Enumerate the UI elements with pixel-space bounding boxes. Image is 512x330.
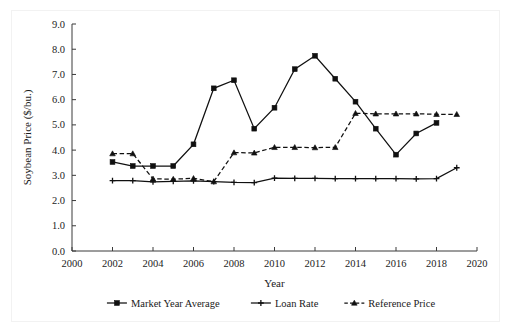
data-point-square-marker [313,53,318,58]
series-reference-price [110,110,460,183]
data-point-square-marker [252,126,257,131]
series-line-path [113,168,457,183]
data-point-plus-marker [110,178,116,184]
data-point-plus-marker [393,176,399,182]
x-tick-label: 2016 [386,258,407,269]
data-point-square-marker [394,152,399,157]
y-tick-label: 2.0 [52,195,65,206]
data-point-plus-marker [434,176,440,182]
x-tick-label: 2014 [345,258,367,269]
data-point-triangle-marker [454,111,460,116]
x-tick-label: 2010 [264,258,285,269]
x-tick-label: 2008 [224,258,245,269]
data-point-square-marker [171,164,176,169]
legend-item-label: Reference Price [368,298,435,309]
y-axis-title: Soybean Price ($/bu.) [21,89,34,185]
data-point-plus-marker [332,176,338,182]
data-point-square-marker [211,86,216,91]
data-point-square-marker [353,99,358,104]
data-point-square-marker [151,164,156,169]
y-tick-label: 0.0 [52,246,65,257]
data-point-plus-marker [272,175,278,181]
data-point-plus-marker [292,175,298,181]
y-tick-label: 1.0 [52,220,65,231]
data-point-square-marker [373,126,378,131]
soybean-price-line-chart: 0.01.02.03.04.05.06.07.08.09.0 200020022… [0,0,512,330]
x-axis-title: Year [264,277,285,289]
x-tick-label: 2020 [467,258,488,269]
data-point-square-marker [434,120,439,125]
y-tick-label: 3.0 [52,170,65,181]
data-point-square-marker [292,67,297,72]
data-point-plus-marker [231,179,237,185]
x-tick-label: 2000 [62,258,83,269]
y-tick-label: 6.0 [52,94,65,105]
data-point-plus-marker [130,178,136,184]
legend-item-market-year-average[interactable]: Market Year Average [107,298,220,309]
series-loan-rate [110,165,460,186]
data-point-plus-marker [353,176,359,182]
data-point-square-marker [272,105,277,110]
data-point-plus-marker [413,176,419,182]
y-tick-label: 8.0 [52,44,65,55]
series-line-path [113,113,457,181]
data-point-plus-marker [312,175,318,181]
data-point-plus-marker [251,180,257,186]
y-tick-label: 9.0 [52,19,65,30]
y-tick-label: 7.0 [52,69,65,80]
x-tick-label: 2012 [305,258,326,269]
axes-group [72,24,477,251]
x-tick-label: 2006 [183,258,204,269]
y-tick-label: 4.0 [52,145,65,156]
data-series-group [110,53,460,185]
x-tick-label: 2018 [426,258,447,269]
data-point-plus-marker [258,300,264,306]
x-axis-ticks: 2000200220042006200820102012201420162018… [62,247,488,269]
legend-item-loan-rate[interactable]: Loan Rate [251,298,319,309]
data-point-square-marker [115,301,120,306]
data-point-square-marker [110,160,115,165]
figure-container: 0.01.02.03.04.05.06.07.08.09.0 200020022… [0,0,512,330]
data-point-square-marker [232,78,237,83]
legend-item-reference-price[interactable]: Reference Price [344,298,435,309]
data-point-square-marker [414,131,419,136]
legend-item-label: Loan Rate [275,298,319,309]
y-tick-label: 5.0 [52,119,65,130]
data-point-square-marker [191,142,196,147]
axis-lines [72,24,477,251]
data-point-plus-marker [454,165,460,171]
series-market-year-average [110,53,439,168]
chart-plot-area: 0.01.02.03.04.05.06.07.08.09.0 200020022… [0,0,512,330]
legend-item-label: Market Year Average [131,298,220,309]
x-tick-label: 2004 [143,258,165,269]
data-point-square-marker [130,164,135,169]
data-point-plus-marker [373,176,379,182]
chart-legend: Market Year AverageLoan RateReference Pr… [107,298,435,309]
x-tick-label: 2002 [102,258,123,269]
data-point-square-marker [333,76,338,81]
